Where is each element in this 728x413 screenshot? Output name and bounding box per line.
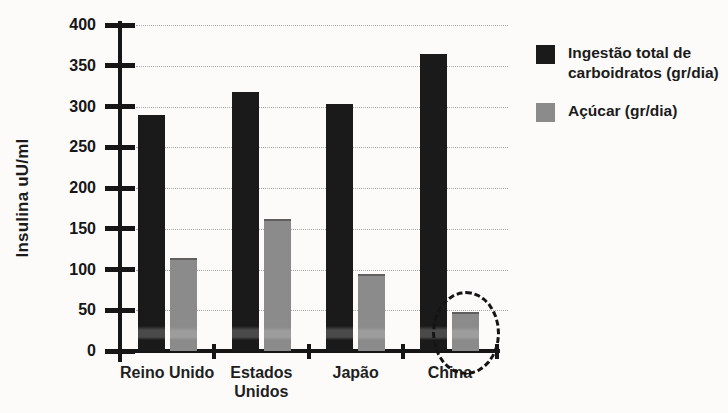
legend-label-carboidratos: Ingestão total de carboidratos (gr/dia) [568, 43, 722, 83]
legend-item-carboidratos: Ingestão total de carboidratos (gr/dia) [536, 43, 722, 83]
gridline [136, 107, 508, 108]
y-tick-label: 350 [44, 57, 96, 75]
category-label: Japão [308, 363, 404, 382]
y-tick [105, 267, 135, 272]
y-tick [105, 226, 135, 231]
gridline [136, 25, 508, 26]
bar [232, 92, 259, 351]
y-tick [105, 186, 135, 191]
gridline [136, 229, 508, 230]
y-tick [105, 104, 135, 109]
category-label: Reino Unido [119, 363, 215, 382]
bar [358, 274, 385, 351]
x-tick [401, 344, 405, 359]
y-tick-label: 250 [44, 138, 96, 156]
legend: Ingestão total de carboidratos (gr/dia) … [536, 43, 722, 122]
y-tick-label: 300 [44, 98, 96, 116]
y-tick [105, 63, 135, 68]
x-tick [307, 344, 311, 359]
y-tick-label: 100 [44, 261, 96, 279]
y-tick-label: 150 [44, 220, 96, 238]
gridline [136, 188, 508, 189]
y-tick [105, 308, 135, 313]
y-tick-label: 50 [44, 301, 96, 319]
legend-swatch-acucar-icon [536, 103, 555, 122]
legend-label-acucar: Açúcar (gr/dia) [568, 101, 677, 121]
bar [264, 219, 291, 351]
y-axis-title: Insulina uU/ml [13, 123, 33, 273]
bar [138, 115, 165, 351]
y-tick-label: 200 [44, 179, 96, 197]
x-tick [212, 344, 216, 359]
insulin-carb-bar-chart: Insulina uU/ml 050100150200250300350400R… [0, 0, 728, 413]
legend-swatch-carboidratos-icon [536, 45, 555, 64]
bar [326, 104, 353, 351]
gridline [136, 147, 508, 148]
x-axis-start-tick [118, 347, 122, 362]
y-tick [105, 145, 135, 150]
category-label: Estados Unidos [213, 363, 309, 401]
plot-area: 050100150200250300350400Reino UnidoEstad… [120, 25, 497, 351]
y-tick-label: 400 [44, 16, 96, 34]
annotation-dashed-circle [432, 291, 500, 375]
y-tick-label: 0 [44, 342, 96, 360]
gridline [136, 66, 508, 67]
bar [170, 258, 197, 351]
y-tick [105, 23, 135, 28]
legend-item-acucar: Açúcar (gr/dia) [536, 101, 722, 122]
